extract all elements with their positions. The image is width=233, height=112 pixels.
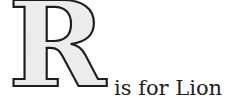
caption-text: is for Lion: [114, 78, 222, 99]
initial-letter: R: [8, 0, 106, 104]
